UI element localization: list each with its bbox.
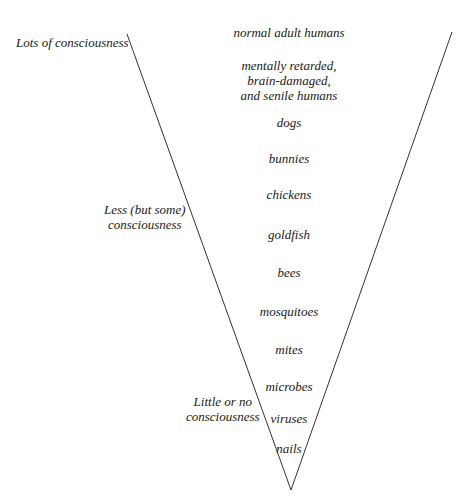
scale-label-top-text: Lots of consciousness [16, 35, 129, 50]
scale-label-middle-line1: Less (but some) [104, 202, 186, 217]
item-label: dogs [277, 115, 302, 130]
item-label: normal adult humans [233, 25, 344, 40]
item-viruses: viruses [271, 411, 308, 426]
consciousness-funnel [0, 0, 469, 504]
item-mites: mites [275, 342, 302, 357]
item-label: mites [275, 342, 302, 357]
scale-label-bottom: Little or no consciousness [186, 394, 260, 424]
scale-label-top: Lots of consciousness [16, 35, 129, 50]
scale-label-bottom-line2: consciousness [186, 409, 260, 424]
item-mosquitoes: mosquitoes [260, 304, 319, 319]
item-bees: bees [277, 265, 300, 280]
item-label: microbes [265, 379, 312, 394]
item-dogs: dogs [277, 115, 302, 130]
item-goldfish: goldfish [268, 227, 310, 242]
item-label: nails [276, 441, 301, 456]
item-nails: nails [276, 441, 301, 456]
scale-label-middle-line2: consciousness [104, 217, 186, 232]
item-label: mosquitoes [260, 304, 319, 319]
scale-label-bottom-line1: Little or no [186, 394, 260, 409]
scale-label-middle: Less (but some) consciousness [104, 202, 186, 232]
item-label-line3: and senile humans [241, 88, 338, 103]
item-label-line2: brain-damaged, [241, 73, 338, 88]
item-label: bees [277, 265, 300, 280]
item-label-line1: mentally retarded, [241, 58, 338, 73]
item-label: viruses [271, 411, 308, 426]
item-bunnies: bunnies [269, 151, 309, 166]
item-microbes: microbes [265, 379, 312, 394]
item-label: chickens [267, 187, 312, 202]
item-normal-adult-humans: normal adult humans [233, 25, 344, 40]
item-label: goldfish [268, 227, 310, 242]
item-chickens: chickens [267, 187, 312, 202]
item-label: bunnies [269, 151, 309, 166]
item-impaired-humans: mentally retarded, brain-damaged, and se… [241, 58, 338, 103]
